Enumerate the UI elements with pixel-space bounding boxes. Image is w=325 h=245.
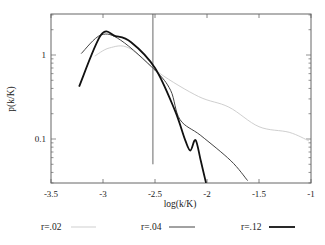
plot-frame bbox=[51, 14, 311, 183]
series-line-r04 bbox=[81, 34, 247, 181]
x-axis-label: log(k/K) bbox=[164, 199, 197, 210]
legend-label: r=.02 bbox=[41, 222, 62, 232]
x-tick-label: -2 bbox=[203, 189, 211, 199]
legend-item-r04: r=.04 bbox=[141, 222, 195, 232]
y-tick-label: 0.1 bbox=[35, 134, 46, 144]
y-tick-label: 1 bbox=[42, 50, 47, 60]
x-tick-label: -2.5 bbox=[148, 189, 163, 199]
x-tick-label: -3 bbox=[99, 189, 107, 199]
legend-item-r02: r=.02 bbox=[41, 222, 96, 232]
chart: -3.5-3-2.5-2-1.5-110.1 log(k/K) p(k/K) r… bbox=[0, 0, 325, 245]
axis-ticks bbox=[51, 14, 311, 183]
legend: r=.02 r=.04 r=.12 bbox=[41, 222, 295, 232]
legend-item-r12: r=.12 bbox=[241, 222, 295, 232]
x-tick-label: -1 bbox=[307, 189, 315, 199]
tick-labels: -3.5-3-2.5-2-1.5-110.1 bbox=[35, 50, 315, 199]
legend-label: r=.04 bbox=[141, 222, 162, 232]
x-tick-label: -3.5 bbox=[44, 189, 59, 199]
series-lines bbox=[79, 31, 309, 183]
x-tick-label: -1.5 bbox=[252, 189, 267, 199]
y-axis-label: p(k/K) bbox=[6, 86, 17, 111]
series-line-r02 bbox=[95, 46, 309, 141]
legend-label: r=.12 bbox=[241, 222, 262, 232]
